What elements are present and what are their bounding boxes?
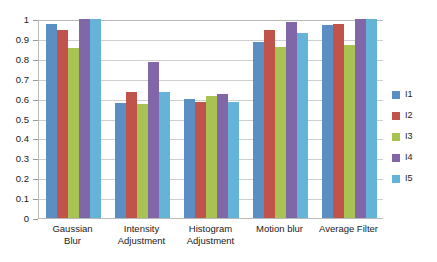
bar [184, 99, 195, 218]
bar [322, 25, 333, 218]
x-axis-category-label: Gaussian Blur [38, 223, 107, 247]
bar [68, 48, 79, 218]
y-axis-tick [33, 120, 38, 121]
bar [228, 102, 239, 218]
legend-item-i3[interactable]: I3 [392, 126, 413, 147]
y-axis-tick [33, 199, 38, 200]
legend-item-i5[interactable]: I5 [392, 168, 413, 189]
y-axis-tick [33, 100, 38, 101]
y-axis-tick-label: 0.4 [0, 135, 29, 145]
y-axis-tick [33, 139, 38, 140]
bar [57, 30, 68, 218]
bar [297, 33, 308, 218]
legend: I1I2I3I4I5 [392, 84, 413, 189]
legend-item-i2[interactable]: I2 [392, 105, 413, 126]
y-axis-tick [33, 159, 38, 160]
bar [46, 24, 57, 218]
legend-item-i4[interactable]: I4 [392, 147, 413, 168]
bar-group [115, 20, 170, 218]
legend-item-i1[interactable]: I1 [392, 84, 413, 105]
x-axis-category-label: Average Filter [314, 223, 383, 235]
bar [137, 104, 148, 218]
y-axis-tick-label: 0.7 [0, 75, 29, 85]
y-axis-tick-label: 0.5 [0, 115, 29, 125]
y-axis-tick-label: 0.2 [0, 174, 29, 184]
bar [148, 62, 159, 218]
bar-group [46, 20, 101, 218]
bar-group [184, 20, 239, 218]
bar [333, 24, 344, 218]
legend-label: I5 [405, 174, 413, 183]
bar [253, 42, 264, 218]
y-axis-tick-label: 0.3 [0, 155, 29, 165]
bar [126, 92, 137, 218]
legend-swatch-icon [392, 175, 400, 183]
bar [195, 102, 206, 218]
bar [90, 19, 101, 218]
bar-chart: 10.90.80.70.60.50.40.30.20.10 Gaussian B… [0, 0, 437, 262]
bar [217, 94, 228, 218]
legend-swatch-icon [392, 154, 400, 162]
bar [159, 92, 170, 218]
y-axis-tick-label: 0 [0, 214, 29, 224]
bar [79, 19, 90, 218]
bar [206, 96, 217, 218]
bar [264, 30, 275, 218]
y-axis-tick-label: 1 [0, 15, 29, 25]
bar [286, 22, 297, 218]
y-axis-tick [33, 40, 38, 41]
legend-label: I3 [405, 132, 413, 141]
legend-label: I1 [405, 90, 413, 99]
y-axis-tick-label: 0.8 [0, 55, 29, 65]
x-axis-category-label: Motion blur [245, 223, 314, 235]
bar-group [322, 20, 377, 218]
legend-swatch-icon [392, 133, 400, 141]
y-axis-tick-label: 0.6 [0, 95, 29, 105]
y-axis-tick-label: 0.9 [0, 35, 29, 45]
legend-label: I2 [405, 111, 413, 120]
y-axis-tick [33, 179, 38, 180]
bar [355, 19, 366, 218]
bar [115, 103, 126, 218]
bar [344, 45, 355, 218]
legend-swatch-icon [392, 112, 400, 120]
y-axis-tick [33, 20, 38, 21]
bar-group [253, 20, 308, 218]
bar [275, 47, 286, 218]
bar [366, 19, 377, 218]
y-axis-tick [33, 219, 38, 220]
y-axis-tick [33, 60, 38, 61]
x-axis-category-label: Intensity Adjustment [107, 223, 176, 247]
legend-label: I4 [405, 153, 413, 162]
y-axis-tick-label: 0.1 [0, 194, 29, 204]
x-axis-category-label: Histogram Adjustment [176, 223, 245, 247]
legend-swatch-icon [392, 91, 400, 99]
plot-area [38, 20, 383, 219]
y-axis-tick [33, 80, 38, 81]
